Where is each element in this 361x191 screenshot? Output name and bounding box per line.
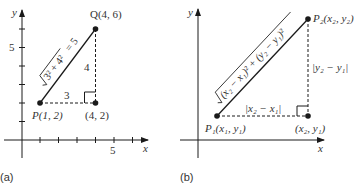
x-axis-label: x [317, 142, 323, 154]
hypotenuse-result: = 5 [63, 36, 80, 54]
point-p-label: P(1, 2) [31, 109, 63, 122]
vertical-leg-label: 4 [84, 61, 90, 73]
corner-label: (4, 2) [85, 109, 109, 122]
point-p2-label: P₂(x₂, y₂) [312, 12, 354, 25]
horizontal-leg-label: |x₂ − x₁| [245, 102, 281, 114]
distance-formula-figure: 5 5 x y P(1, 2) Q(4, 6) (4, 2) 3 4 3² + … [0, 0, 361, 191]
hypotenuse-radicand: 3² + 4² [41, 53, 67, 82]
y-axis-label: y [11, 6, 17, 18]
x-tick-label-5: 5 [110, 144, 116, 156]
point-q-label: Q(4, 6) [90, 8, 122, 21]
point-corner [305, 113, 311, 119]
point-corner [93, 100, 99, 106]
point-p2 [305, 16, 311, 22]
point-p1 [214, 113, 220, 119]
horizontal-leg-label: 3 [64, 89, 70, 101]
hypotenuse-formula: (x₂ − x₁)² + (y₂ − y₁)² [211, 12, 301, 106]
corner-label: (x₂, y₁) [295, 122, 326, 135]
y-axis-label: y [187, 6, 193, 18]
y-tick-label-5: 5 [9, 41, 15, 53]
panel-label-b: (b) [180, 171, 193, 183]
point-p [37, 100, 43, 106]
panel-b: x y P₁(x₁, y₁) P₂(x₂, y₂) (x₂, y₁) |x₂ −… [180, 6, 354, 183]
point-q [93, 26, 99, 32]
panel-a: 5 5 x y P(1, 2) Q(4, 6) (4, 2) 3 4 3² + … [0, 6, 148, 183]
panel-label-a: (a) [0, 171, 13, 183]
vertical-leg-label: |y₂ − y₁| [312, 61, 348, 73]
x-axis-label: x [142, 142, 148, 154]
point-p1-label: P₁(x₁, y₁) [204, 122, 246, 135]
hypotenuse-radicand: (x₂ − x₁)² + (y₂ − y₁)² [217, 26, 288, 101]
